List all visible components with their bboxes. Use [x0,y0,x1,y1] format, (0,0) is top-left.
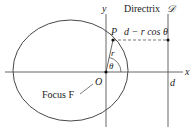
distance-label: d − r cos θ [124,26,168,37]
directrix-label: Directrix [124,3,160,14]
y-axis-label: y [101,3,107,14]
d-mark-label: d [170,77,176,88]
radius-label: r [111,48,115,58]
origin-label: O [95,76,102,87]
point-directrix [166,38,169,41]
point-P-label: P [110,26,117,37]
directrix-symbol: 𝒟 [167,3,177,14]
focus-label: Focus F [42,89,74,100]
point-origin [104,70,107,73]
point-P [111,38,114,41]
x-axis-label: x [184,66,190,77]
conic-polar-diagram: y x Directrix 𝒟 P d − r cos θ r θ O Focu… [0,0,193,133]
focus-leader-line [80,84,93,94]
angle-label: θ [109,61,114,71]
